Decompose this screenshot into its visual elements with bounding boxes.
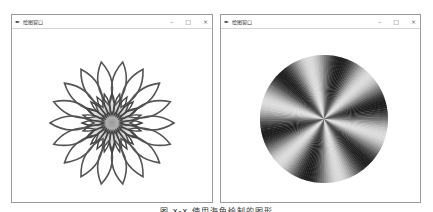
drawing-canvas — [221, 29, 420, 202]
figure-caption: 图 x-x 使用海龟绘制的图形 — [0, 205, 433, 212]
spirograph-flower-figure — [12, 29, 212, 203]
turtle-window-right: ✒ 绘图窗口 – □ × — [220, 14, 421, 203]
minimize-button[interactable]: – — [378, 18, 381, 25]
minimize-button[interactable]: – — [170, 18, 173, 25]
feather-icon: ✒ — [15, 18, 20, 25]
drawing-canvas — [12, 29, 212, 202]
maximize-button[interactable]: □ — [185, 18, 191, 25]
feather-icon: ✒ — [224, 18, 229, 25]
window-title: 绘图窗口 — [23, 18, 43, 25]
close-button[interactable]: × — [411, 18, 416, 25]
title-bar[interactable]: ✒ 绘图窗口 – □ × — [221, 15, 420, 29]
close-button[interactable]: × — [203, 18, 208, 25]
title-bar[interactable]: ✒ 绘图窗口 – □ × — [12, 15, 212, 29]
window-title: 绘图窗口 — [232, 18, 252, 25]
radial-gradient-disc-figure — [221, 29, 420, 203]
maximize-button[interactable]: □ — [393, 18, 399, 25]
turtle-window-left: ✒ 绘图窗口 – □ × — [11, 14, 213, 203]
